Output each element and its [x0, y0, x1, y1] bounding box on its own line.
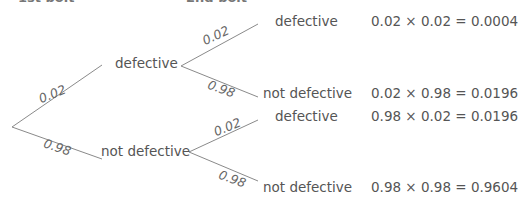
outcome-defective-not-defective: not defective: [263, 87, 352, 101]
outcome-not-defective-defective: defective: [275, 110, 338, 124]
node-not-defective: not defective: [101, 145, 190, 159]
tree-branches: [0, 0, 522, 202]
outcome-not-defective-not-defective: not defective: [263, 181, 352, 195]
equation-4: 0.98 × 0.98 = 0.9604: [371, 181, 518, 195]
equation-1: 0.02 × 0.02 = 0.0004: [371, 15, 518, 29]
equation-2: 0.02 × 0.98 = 0.0196: [371, 87, 518, 101]
equation-3: 0.98 × 0.02 = 0.0196: [371, 110, 518, 124]
node-defective: defective: [115, 57, 178, 71]
outcome-defective-defective: defective: [275, 15, 338, 29]
